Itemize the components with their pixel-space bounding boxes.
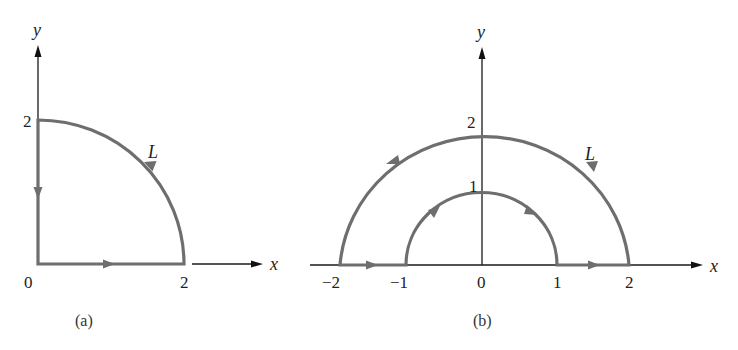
x-axis-arrow-icon <box>691 262 703 269</box>
figure-a-caption: (a) <box>75 312 93 330</box>
figure-b-x-label: x <box>709 256 718 276</box>
figure-a-y-tick-2: 2 <box>23 112 32 131</box>
figure-b-y-tick-1: 1 <box>469 177 478 196</box>
figure-a-contour-label: L <box>147 142 158 162</box>
figure-b-x-tick-neg2: −2 <box>322 273 340 292</box>
figure-b-x-tick-neg1: −1 <box>390 273 408 292</box>
figure-b-y-label: y <box>475 22 485 42</box>
figure-a: y x 2 0 2 L (a) <box>23 20 278 330</box>
figure-a-origin-label: 0 <box>24 273 33 292</box>
figure-a-y-label: y <box>31 20 41 40</box>
figure-a-x-tick-2: 2 <box>180 273 189 292</box>
figure-b-caption: (b) <box>473 312 492 330</box>
figure-b-y-tick-2: 2 <box>467 113 476 132</box>
contour-direction-arrow-icon <box>588 261 600 270</box>
y-axis-arrow-icon <box>479 47 486 59</box>
figure-a-contour-L <box>38 120 184 264</box>
contour-direction-arrow-icon <box>103 260 115 269</box>
contour-direction-arrow-icon <box>366 261 378 270</box>
y-axis-arrow-icon <box>35 45 42 57</box>
figure-b: y x 2 1 −2 −1 0 1 2 L (b) <box>310 22 718 330</box>
figure-b-x-tick-0: 0 <box>477 273 486 292</box>
figure-a-x-label: x <box>269 254 278 274</box>
figure-b-x-tick-1: 1 <box>553 273 562 292</box>
figure-b-contour-label: L <box>584 144 595 164</box>
figure-b-x-tick-2: 2 <box>625 273 634 292</box>
contour-direction-arrow-icon <box>34 187 43 199</box>
diagram-canvas: y x 2 0 2 L (a) y x 2 1 −2 −1 0 1 2 <box>0 0 738 350</box>
contour-direction-arrow-icon <box>386 155 400 164</box>
x-axis-arrow-icon <box>251 261 263 268</box>
